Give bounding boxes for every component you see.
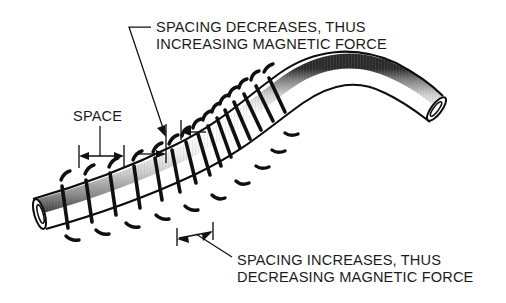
bottom-leader-path <box>196 234 232 257</box>
top-leader-arrowhead <box>157 125 166 137</box>
diagram-canvas: SPACE SPACING DE <box>0 0 506 303</box>
space-dim-arrowhead-left <box>79 152 89 160</box>
space-label: SPACE <box>73 108 122 124</box>
bottom-annotation-text: SPACING INCREASES, THUS DECREASING MAGNE… <box>237 252 474 285</box>
space-dimension <box>79 126 124 168</box>
expanded-spacing-dimension <box>177 222 213 246</box>
magnetic-spacing-diagram: SPACE SPACING DE <box>0 0 506 303</box>
top-annotation-text: SPACING DECREASES, THUS INCREASING MAGNE… <box>156 19 387 52</box>
top-annotation-line1: SPACING DECREASES, THUS <box>156 19 366 35</box>
bottom-annotation-line1: SPACING INCREASES, THUS <box>237 252 441 268</box>
bottom-annotation-leader <box>196 234 232 257</box>
bottom-annotation-line2: DECREASING MAGNETIC FORCE <box>237 269 474 285</box>
top-annotation-line2: INCREASING MAGNETIC FORCE <box>156 36 387 52</box>
